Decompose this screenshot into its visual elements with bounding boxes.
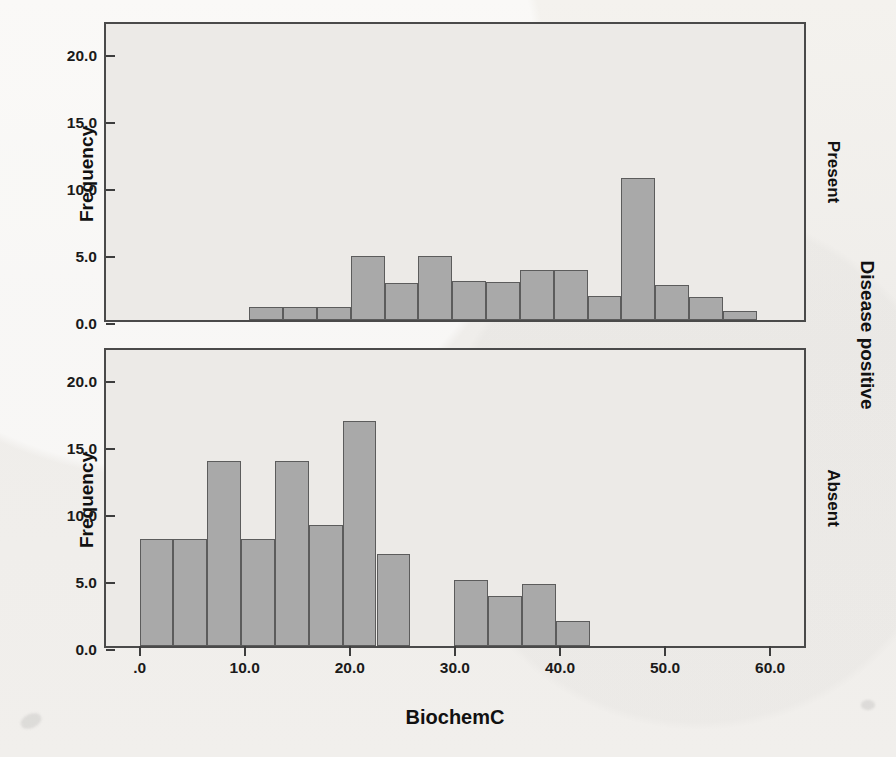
histogram-bar	[241, 539, 275, 646]
x-axis-tick-mark	[349, 646, 351, 656]
histogram-bar	[207, 461, 241, 646]
scan-smudge	[18, 710, 44, 732]
x-axis-tick-label: 30.0	[440, 659, 470, 677]
histogram-bar	[520, 270, 554, 320]
x-axis-tick-mark	[769, 646, 771, 656]
histogram-bar	[454, 580, 488, 646]
x-axis-tick-mark	[664, 646, 666, 656]
x-axis-tick-label: 40.0	[545, 659, 575, 677]
y-axis-tick-label: 5.0	[75, 574, 106, 592]
histogram-bar	[351, 256, 385, 320]
histogram-bar	[452, 281, 486, 321]
x-axis-tick-label: 10.0	[230, 659, 260, 677]
x-axis-tick-mark	[454, 646, 456, 656]
panel-caption-absent: Absent	[821, 438, 843, 558]
x-axis-label: BiochemC	[406, 706, 505, 729]
plot-area-present	[106, 24, 804, 320]
x-axis-tick-mark	[559, 646, 561, 656]
y-axis-tick-label: 15.0	[67, 114, 106, 132]
histogram-bar	[723, 311, 757, 320]
histogram-bar	[385, 283, 419, 321]
histogram-bar	[343, 421, 377, 646]
histogram-bar	[621, 178, 655, 320]
histogram-bar	[377, 554, 411, 646]
y-axis-tick-label: 10.0	[67, 181, 106, 199]
y-axis-tick-label: 20.0	[67, 47, 106, 65]
histogram-bar	[486, 282, 520, 320]
histogram-bar	[689, 297, 723, 320]
x-axis-tick-label: 60.0	[755, 659, 785, 677]
histogram-bar	[283, 307, 317, 320]
histogram-bar	[249, 307, 283, 320]
histogram-bar	[275, 461, 309, 646]
x-axis-tick-label: 50.0	[650, 659, 680, 677]
histogram-bar	[309, 525, 343, 646]
panel-absent: Frequency 0.05.010.015.020.0 .010.020.03…	[104, 348, 806, 648]
histogram-bar	[655, 285, 689, 320]
figure-canvas: Frequency 0.05.010.015.020.0 Frequency 0…	[0, 0, 896, 757]
y-axis-tick-label: 0.0	[75, 315, 106, 333]
x-axis-tick-label: .0	[133, 659, 146, 677]
panel-caption-present: Present	[821, 112, 843, 232]
x-axis-tick-mark	[139, 646, 141, 656]
y-axis-tick-label: 10.0	[67, 507, 106, 525]
scan-smudge	[861, 700, 875, 710]
histogram-bar	[418, 256, 452, 320]
plot-area-absent	[106, 350, 804, 646]
x-axis-tick-mark	[244, 646, 246, 656]
histogram-bar	[317, 307, 351, 320]
y-axis-tick-label: 15.0	[67, 440, 106, 458]
panel-group-label: Disease positive	[854, 225, 878, 445]
histogram-bar	[140, 539, 174, 646]
panel-present: Frequency 0.05.010.015.020.0	[104, 22, 806, 322]
y-axis-tick-label: 20.0	[67, 373, 106, 391]
x-axis-tick-label: 20.0	[335, 659, 365, 677]
histogram-bar	[173, 539, 207, 646]
y-axis-tick-label: 0.0	[75, 641, 106, 659]
histogram-bar	[556, 621, 590, 646]
histogram-bar	[588, 296, 622, 320]
histogram-bar	[554, 270, 588, 320]
y-axis-tick-label: 5.0	[75, 248, 106, 266]
histogram-bar	[488, 596, 522, 646]
histogram-bar	[522, 584, 556, 646]
